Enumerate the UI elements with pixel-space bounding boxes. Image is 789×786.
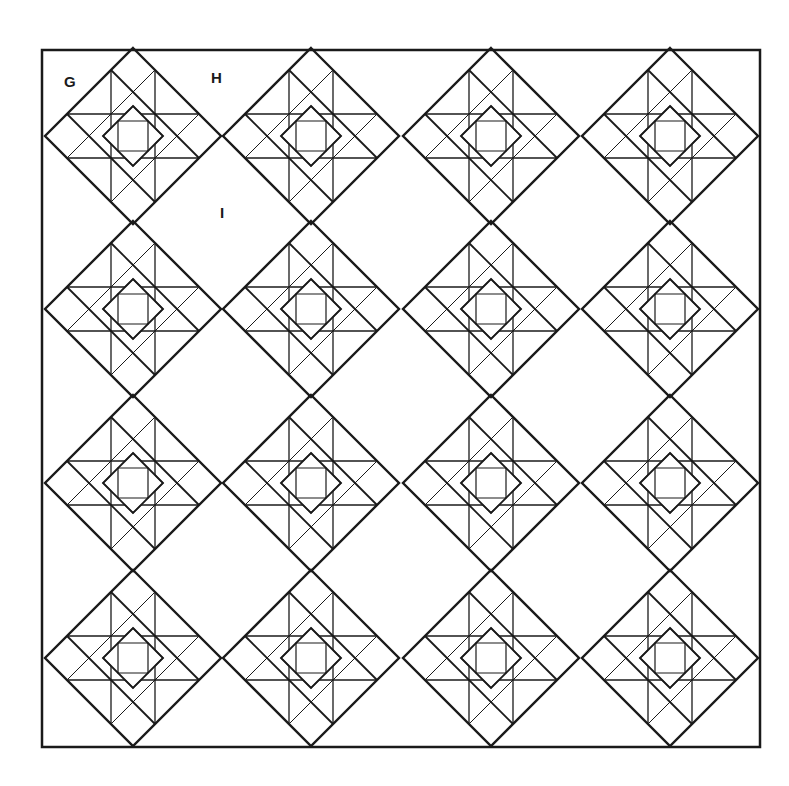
star-block: [45, 570, 221, 746]
star-block: [582, 221, 758, 397]
star-block: [403, 570, 579, 746]
quilt-diagram: [0, 0, 789, 786]
star-block: [582, 570, 758, 746]
star-block: [45, 395, 221, 571]
star-block: [403, 48, 579, 224]
star-block: [223, 395, 399, 571]
star-block: [403, 221, 579, 397]
quilt-border: [42, 50, 760, 747]
star-block: [403, 395, 579, 571]
star-block: [223, 570, 399, 746]
star-block: [223, 48, 399, 224]
label-h: H: [211, 69, 222, 86]
star-block: [582, 48, 758, 224]
star-block: [45, 221, 221, 397]
star-block: [223, 221, 399, 397]
label-g: G: [64, 73, 76, 90]
block-grid: [45, 48, 758, 746]
star-block: [582, 395, 758, 571]
label-i: I: [220, 204, 224, 221]
